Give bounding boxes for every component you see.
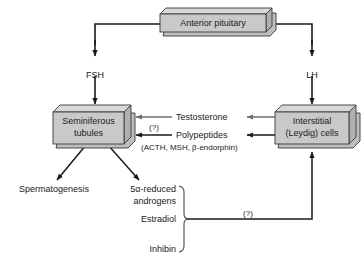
connector-pituitary-to-lh	[270, 24, 312, 104]
connector-pituitary-to-fsh	[95, 24, 160, 104]
label-inhibin: Inhibin	[149, 244, 176, 254]
connector-tubules-to-androgens	[108, 145, 139, 180]
label-polypeptides-detail: (ACTH, MSH, β-endorphin)	[141, 143, 238, 152]
label-testosterone: Testosterone	[176, 112, 228, 122]
box-label-interstitial-line1: Interstitial	[293, 116, 332, 126]
box-interstitial-leydig-cells[interactable]: Interstitial (Leydig) cells	[275, 105, 360, 148]
label-lh: LH	[306, 70, 318, 80]
grouping-brace	[179, 186, 188, 252]
diagram-canvas: Anterior pituitary Seminiferous tubules …	[0, 0, 361, 264]
label-5a-reduced-androgens-line2: androgens	[133, 196, 176, 206]
box-anterior-pituitary[interactable]: Anterior pituitary	[160, 8, 276, 36]
label-fsh: FSH	[86, 70, 104, 80]
box-label-seminiferous-tubules-line1: Seminiferous	[62, 116, 115, 126]
box-seminiferous-tubules[interactable]: Seminiferous tubules	[53, 105, 135, 148]
flowchart-svg: Anterior pituitary Seminiferous tubules …	[0, 0, 361, 264]
label-question-mark-brace-feedback: (?)	[243, 209, 253, 218]
label-question-mark-tubule-feedback: (?)	[149, 123, 159, 132]
label-estradiol: Estradiol	[141, 214, 176, 224]
connector-tubules-to-spermatogenesis	[57, 145, 86, 180]
label-5a-reduced-androgens-line1: 5α-reduced	[130, 184, 176, 194]
box-label-seminiferous-tubules-line2: tubules	[74, 128, 104, 138]
box-label-anterior-pituitary: Anterior pituitary	[180, 18, 246, 28]
label-polypeptides: Polypeptides	[176, 130, 228, 140]
label-spermatogenesis: Spermatogenesis	[19, 184, 90, 194]
box-label-interstitial-line2: (Leydig) cells	[285, 128, 339, 138]
